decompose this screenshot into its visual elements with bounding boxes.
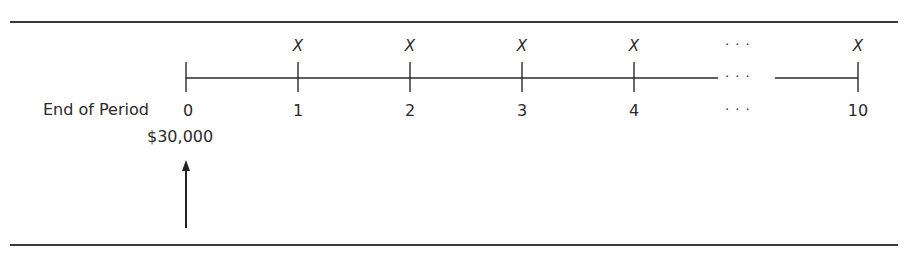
period-2: 2 [405,101,415,120]
payment-label-10: X [853,37,863,55]
payment-label-4: X [629,37,639,55]
period-0: 0 [183,101,193,120]
payment-label-2: X [405,37,415,55]
ellipsis-line: · · · [725,68,751,86]
period-1: 1 [293,101,303,120]
up-arrow-icon [182,160,190,228]
period-4: 4 [629,101,639,120]
row-label: End of Period [43,101,149,119]
bottom-rule [10,244,898,246]
period-10: 10 [848,101,868,120]
present-value: $30,000 [147,128,213,146]
payment-label-3: X [517,37,527,55]
timeline-graphic [0,0,907,255]
ellipsis-top: · · · [725,36,751,54]
period-3: 3 [517,101,527,120]
ellipsis-bottom: · · · [725,101,751,119]
payment-label-1: X [293,37,303,55]
